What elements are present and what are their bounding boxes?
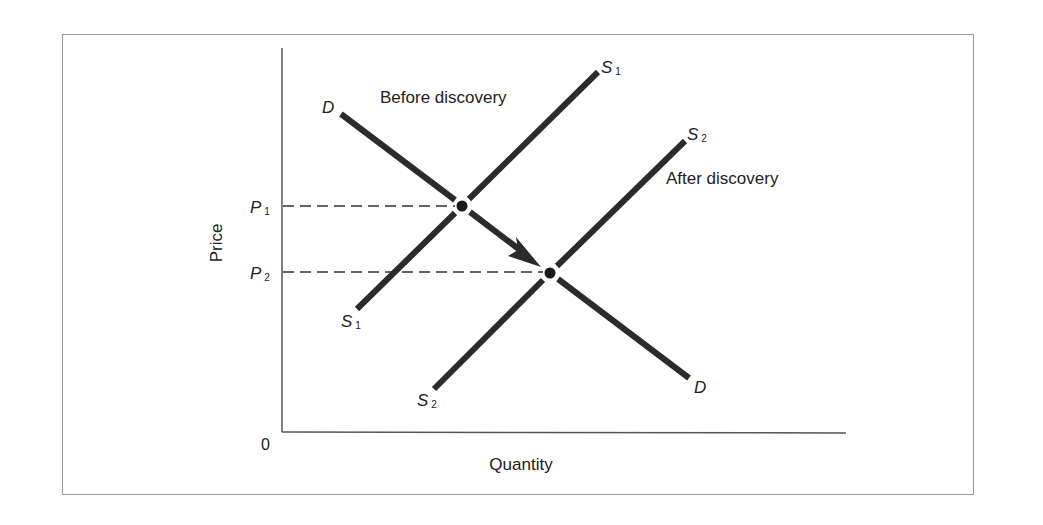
x-axis [282, 432, 846, 433]
supply-curve-s1 [357, 72, 598, 309]
after-discovery-label: After discovery [666, 169, 779, 188]
price-axis-label: Price [207, 224, 226, 263]
supply-demand-diagram: Price Quantity 0 P1 P2 D D S1 S1 S2 S2 B… [0, 0, 1043, 525]
before-discovery-label: Before discovery [380, 88, 507, 107]
origin-label: 0 [261, 436, 270, 453]
equilibrium-point-1 [457, 201, 468, 212]
equilibrium-point-2 [545, 268, 556, 279]
demand-label-bottom: D [694, 378, 706, 397]
quantity-axis-label: Quantity [489, 455, 553, 474]
p2-label: P2 [250, 264, 270, 283]
demand-label-top: D [322, 98, 334, 117]
p1-label: P1 [250, 198, 270, 217]
s2-label-bottom: S2 [417, 391, 437, 410]
s1-label-top: S1 [601, 58, 621, 77]
s2-label-top: S2 [687, 125, 707, 144]
s1-label-bottom: S1 [341, 312, 361, 331]
supply-curve-s2 [434, 141, 685, 389]
